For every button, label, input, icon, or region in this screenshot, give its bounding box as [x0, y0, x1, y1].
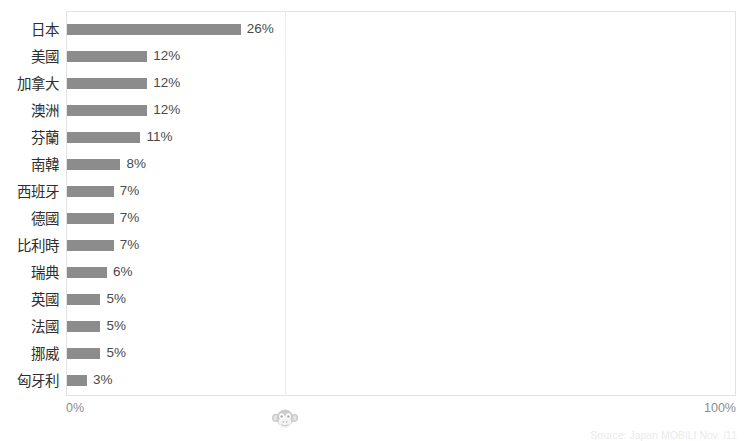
bar-value-label: 7%: [120, 183, 140, 199]
bar-value-label: 7%: [120, 210, 140, 226]
bar-value-label: 7%: [120, 237, 140, 253]
bar-value-label: 26%: [247, 21, 274, 37]
bar-category-label: 西班牙: [0, 184, 59, 200]
bar: [67, 213, 114, 224]
bar-row: 德國7%: [0, 211, 746, 238]
bar-category-label: 芬蘭: [0, 130, 59, 146]
bar: [67, 51, 147, 62]
bar: [67, 78, 147, 89]
bar-value-label: 11%: [146, 129, 172, 145]
cutoff-title-strip: [0, 0, 746, 9]
bar-value-label: 5%: [106, 291, 126, 307]
bar-category-label: 匈牙利: [0, 373, 59, 389]
bar-category-label: 瑞典: [0, 265, 59, 281]
bar-category-label: 英國: [0, 292, 59, 308]
bar-value-label: 12%: [153, 102, 180, 118]
bar-value-label: 12%: [153, 75, 180, 91]
bar: [67, 294, 100, 305]
bar-category-label: 德國: [0, 211, 59, 227]
bar-row: 芬蘭11%: [0, 130, 746, 157]
cutoff-source-text: Source: Japan MOBILI Nov. /11: [0, 429, 737, 441]
bar-value-label: 8%: [126, 156, 146, 172]
bar: [67, 186, 114, 197]
bar-value-label: 5%: [106, 345, 126, 361]
bar-row: 比利時7%: [0, 238, 746, 265]
bar-row: 挪威5%: [0, 346, 746, 373]
bar-category-label: 南韓: [0, 157, 59, 173]
bar-category-label: 美國: [0, 49, 59, 65]
bar-row: 美國12%: [0, 49, 746, 76]
bar-row: 匈牙利3%: [0, 373, 746, 400]
bar-category-label: 澳洲: [0, 103, 59, 119]
bar-value-label: 5%: [106, 318, 126, 334]
bar-rows: 日本26%美國12%加拿大12%澳洲12%芬蘭11%南韓8%西班牙7%德國7%比…: [0, 11, 746, 396]
bar: [67, 132, 140, 143]
bar: [67, 159, 120, 170]
bar-value-label: 6%: [113, 264, 133, 280]
bar: [67, 321, 100, 332]
bar-row: 西班牙7%: [0, 184, 746, 211]
bar: [67, 24, 241, 35]
bar: [67, 105, 147, 116]
bar-category-label: 比利時: [0, 238, 59, 254]
bar-row: 法國5%: [0, 319, 746, 346]
bar: [67, 348, 100, 359]
bar-value-label: 3%: [93, 372, 113, 388]
chart-screenshot: 日本26%美國12%加拿大12%澳洲12%芬蘭11%南韓8%西班牙7%德國7%比…: [0, 0, 746, 441]
bar: [67, 375, 87, 386]
bar-category-label: 日本: [0, 22, 59, 38]
bar-row: 日本26%: [0, 22, 746, 49]
bar-row: 澳洲12%: [0, 103, 746, 130]
bar-category-label: 挪威: [0, 346, 59, 362]
bar-row: 南韓8%: [0, 157, 746, 184]
bar-value-label: 12%: [153, 48, 180, 64]
bar-row: 加拿大12%: [0, 76, 746, 103]
bar: [67, 240, 114, 251]
bar-row: 瑞典6%: [0, 265, 746, 292]
bar: [67, 267, 107, 278]
bar-row: 英國5%: [0, 292, 746, 319]
bar-category-label: 法國: [0, 319, 59, 335]
x-axis-tick-max: 100%: [0, 401, 736, 416]
bar-category-label: 加拿大: [0, 76, 59, 92]
